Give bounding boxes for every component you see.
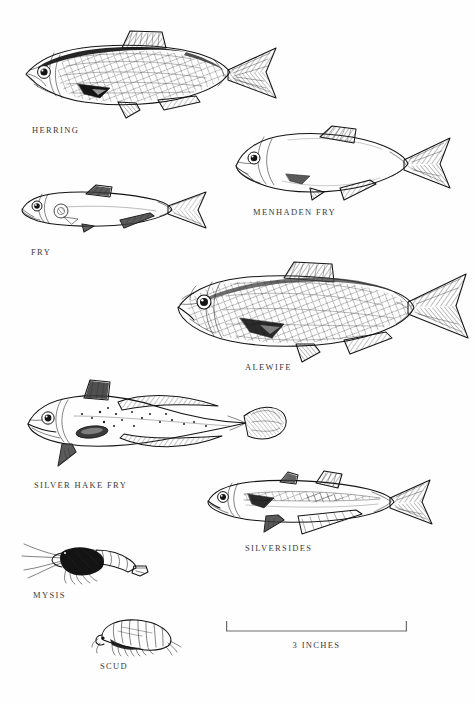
scud-illustration	[92, 617, 182, 657]
menhaden-fry-illustration	[228, 126, 458, 208]
caption-menhaden-fry: MENHADEN FRY	[253, 207, 336, 217]
figure-silversides	[202, 470, 438, 540]
caption-alewife: ALEWIFE	[245, 362, 292, 372]
figure-silver-hake-fry	[22, 376, 292, 470]
figure-herring	[14, 26, 284, 126]
illustration-plate: HERRING	[0, 0, 475, 703]
caption-silversides: SILVERSIDES	[245, 543, 312, 553]
fry-illustration	[16, 184, 212, 240]
figure-alewife	[168, 262, 473, 362]
figure-scud	[92, 617, 182, 657]
figure-mysis	[22, 536, 152, 586]
herring-illustration	[14, 26, 284, 126]
scale-bar-rule	[226, 620, 407, 634]
caption-silver-hake-fry: SILVER HAKE FRY	[34, 480, 127, 490]
caption-herring: HERRING	[32, 125, 79, 135]
figure-fry	[16, 184, 212, 240]
caption-mysis: MYSIS	[33, 590, 66, 600]
mysis-illustration	[22, 536, 152, 586]
caption-scud: SCUD	[100, 661, 128, 671]
scale-bar: 3 INCHES	[226, 620, 407, 652]
silversides-illustration	[202, 470, 438, 540]
figure-menhaden-fry	[228, 126, 458, 208]
scale-bar-label: 3 INCHES	[226, 640, 407, 650]
alewife-illustration	[168, 262, 473, 362]
silver-hake-fry-illustration	[22, 376, 292, 470]
caption-fry: FRY	[31, 247, 51, 257]
